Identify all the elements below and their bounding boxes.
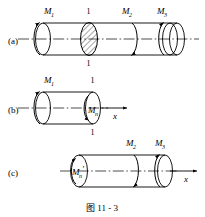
torsion-shaft-diagram: (a) — [0, 0, 205, 217]
panel-b-section-label-bottom: 1 — [91, 128, 95, 137]
panel-b-id: (b) — [8, 105, 19, 115]
panel-c-label-Mn-prime: M n ' — [71, 164, 85, 179]
panel-a-label-M2-sub: 2 — [129, 12, 132, 18]
panel-a: (a) — [8, 6, 199, 68]
panel-b-label-M1: M 1 — [43, 75, 54, 87]
panel-a-label-M3: M 3 — [156, 6, 167, 18]
panel-b-label-M1-sub: 1 — [51, 81, 54, 87]
panel-b-label-Mn-sub: n — [95, 111, 98, 117]
panel-c-axis-label: x — [183, 174, 188, 184]
panel-b-section-label-top: 1 — [91, 76, 95, 85]
panel-b-label-Mn: M n — [87, 105, 98, 117]
panel-c-label-M2-sub: 2 — [133, 144, 136, 150]
panel-a-id: (a) — [8, 36, 18, 46]
panel-a-label-M3-sub: 3 — [163, 12, 167, 18]
panel-a-section-label-top: 1 — [87, 7, 91, 16]
figure-container: (a) — [0, 0, 205, 217]
panel-a-label-M1-sub: 1 — [51, 12, 54, 18]
panel-a-label-M2: M 2 — [121, 6, 132, 18]
panel-b: (b) x — [8, 75, 127, 137]
panel-a-label-M1: M 1 — [43, 6, 54, 18]
panel-c-label-Mn-prime-mark: ' — [82, 164, 85, 174]
panel-c-label-M3: M 3 — [154, 138, 165, 150]
panel-c-label-M3-sub: 3 — [161, 144, 165, 150]
panel-a-section-label-bottom: 1 — [87, 59, 91, 68]
panel-a-hatched-section — [81, 23, 98, 56]
panel-c-label-M2: M 2 — [125, 138, 136, 150]
panel-c-id: (c) — [8, 168, 18, 178]
figure-caption: 图 11 - 3 — [86, 203, 118, 213]
panel-b-axis-label: x — [112, 111, 117, 121]
panel-c: (c) x — [8, 138, 197, 187]
